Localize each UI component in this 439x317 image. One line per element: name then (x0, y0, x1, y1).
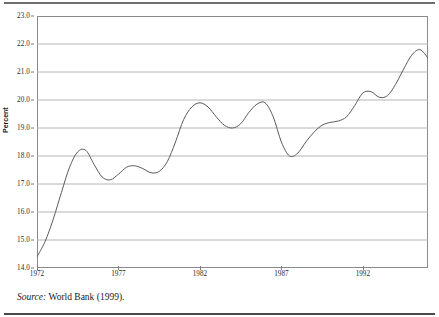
plot-area (37, 16, 428, 268)
x-tick-label: 1977 (111, 270, 125, 278)
y-tick-label: 16.0 (17, 208, 30, 216)
y-tick-label: 22.0 (17, 40, 30, 48)
figure-bottom-rule (4, 313, 435, 315)
source-label: Source: (17, 292, 46, 302)
x-tick-mark (37, 266, 38, 270)
figure-top-rule (4, 2, 435, 4)
y-tick-mark (31, 100, 34, 101)
y-tick-mark (31, 184, 34, 185)
y-axis-ticks: 14.015.016.017.018.019.020.021.022.023.0 (0, 16, 34, 268)
source-note: Source: World Bank (1999). (17, 292, 124, 302)
x-tick-label: 1972 (30, 270, 44, 278)
data-line-percent (37, 50, 428, 257)
figure-container: Percent 14.015.016.017.018.019.020.021.0… (0, 0, 439, 317)
y-tick-label: 20.0 (17, 96, 30, 104)
y-tick-mark (31, 268, 34, 269)
x-axis-ticks: 19721977198219871992 (37, 270, 428, 284)
gridlines (37, 44, 428, 240)
y-tick-label: 21.0 (17, 68, 30, 76)
x-tick-label: 1982 (193, 270, 207, 278)
y-tick-mark (31, 44, 34, 45)
y-tick-label: 18.0 (17, 152, 30, 160)
y-tick-mark (31, 16, 34, 17)
y-tick-mark (31, 212, 34, 213)
x-tick-label: 1992 (356, 270, 370, 278)
y-tick-mark (31, 128, 34, 129)
y-tick-label: 14.0 (17, 264, 30, 272)
y-tick-mark (31, 72, 34, 73)
source-value: World Bank (1999). (48, 292, 124, 302)
x-tick-mark (118, 266, 119, 270)
x-tick-mark (281, 266, 282, 270)
x-tick-label: 1987 (274, 270, 288, 278)
plot-svg (37, 16, 428, 268)
y-tick-label: 23.0 (17, 12, 30, 20)
x-tick-mark (200, 266, 201, 270)
y-tick-mark (31, 156, 34, 157)
x-tick-mark (363, 266, 364, 270)
y-tick-label: 15.0 (17, 236, 30, 244)
y-tick-mark (31, 240, 34, 241)
y-tick-label: 17.0 (17, 180, 30, 188)
y-tick-label: 19.0 (17, 124, 30, 132)
